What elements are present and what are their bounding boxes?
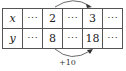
- table-cell: 2: [43, 9, 63, 29]
- table-row-x: x ⋯ 2 ⋯ 3 ⋯: [3, 9, 123, 29]
- table-cell: ⋯: [103, 9, 123, 29]
- table-cell: ⋯: [23, 29, 43, 49]
- bottom-arrowhead-icon: [87, 49, 93, 54]
- table-cell: ⋯: [23, 9, 43, 29]
- top-arrow-icon: [55, 1, 90, 7]
- xy-table: x ⋯ 2 ⋯ 3 ⋯ y ⋯ 8 ⋯ 18 ⋯: [2, 8, 123, 49]
- table-cell: ⋯: [63, 9, 83, 29]
- bottom-arrow-label: +10: [59, 58, 76, 67]
- table-cell: ⋯: [103, 29, 123, 49]
- bottom-arrow-icon: [55, 49, 90, 57]
- table-cell: 18: [83, 29, 103, 49]
- table-cell: ⋯: [63, 29, 83, 49]
- row-header-y: y: [3, 29, 23, 49]
- table-cell: 8: [43, 29, 63, 49]
- table-cell: 3: [83, 9, 103, 29]
- row-header-x: x: [3, 9, 23, 29]
- table-row-y: y ⋯ 8 ⋯ 18 ⋯: [3, 29, 123, 49]
